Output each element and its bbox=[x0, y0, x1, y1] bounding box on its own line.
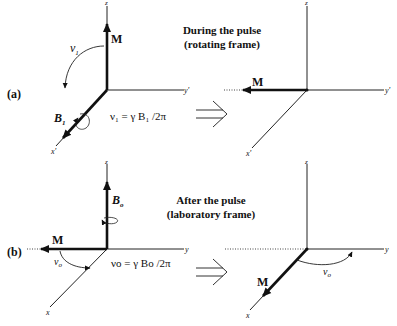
nu0-precession-arc bbox=[297, 252, 352, 265]
panel-a-title-line2: (rotating frame) bbox=[184, 38, 260, 51]
larmor-equation-b0: νo = γ Bo /2π bbox=[111, 257, 171, 269]
z-axis-label: z bbox=[304, 0, 308, 7]
panel-b-left-axes bbox=[27, 164, 184, 307]
vector-M-label: M bbox=[252, 75, 263, 89]
larmor-equation-b1: ν₁ = γ B₁ /2π bbox=[110, 110, 167, 122]
x-axis-label: x bbox=[245, 311, 250, 320]
b0-label: Bo bbox=[111, 193, 124, 209]
z-axis-label: z bbox=[104, 158, 108, 166]
panel-b-title-line2: (laboratory frame) bbox=[167, 208, 256, 221]
panel-a-title-line1: During the pulse bbox=[183, 24, 261, 36]
vector-M-label: M bbox=[52, 233, 63, 247]
panel-b-title-line1: After the pulse bbox=[176, 194, 246, 206]
z-axis-label: z bbox=[104, 0, 108, 7]
b1-label: B1 bbox=[53, 111, 66, 127]
panel-b-right-axes bbox=[225, 164, 384, 310]
panel-b-label: (b) bbox=[7, 245, 22, 259]
vector-M-label: M bbox=[111, 32, 122, 46]
y-axis-label: y bbox=[384, 245, 389, 254]
nu0-precession-arc bbox=[60, 251, 90, 268]
panel-a-label: (a) bbox=[7, 87, 21, 101]
nu0-label: νo bbox=[323, 266, 331, 279]
y-prime-axis-label: y' bbox=[384, 86, 391, 95]
vector-M-label: M bbox=[257, 275, 268, 289]
y-axis-label: y bbox=[184, 245, 189, 254]
x-axis bbox=[50, 249, 107, 307]
x-prime-axis-label: x' bbox=[50, 147, 57, 156]
x-prime-axis-label: x' bbox=[245, 149, 252, 158]
z-axis-label: z bbox=[304, 158, 308, 166]
x-prime-axis bbox=[252, 90, 307, 148]
panel-a-left-axes bbox=[56, 6, 184, 146]
nu0-label: νo bbox=[54, 256, 62, 269]
nmr-pulse-diagram: (a) z y' x' M ν1 B1 ν₁ = γ B₁ /2π During… bbox=[0, 0, 397, 326]
transition-arrow-b bbox=[196, 259, 227, 285]
x-axis-label: x bbox=[45, 308, 50, 317]
transition-arrow-a bbox=[196, 101, 227, 127]
nu1-label: ν1 bbox=[70, 41, 79, 57]
y-prime-axis-label: y' bbox=[183, 86, 190, 95]
b0-rotation-loop bbox=[102, 217, 118, 223]
magnetization-vector-M bbox=[263, 249, 307, 296]
